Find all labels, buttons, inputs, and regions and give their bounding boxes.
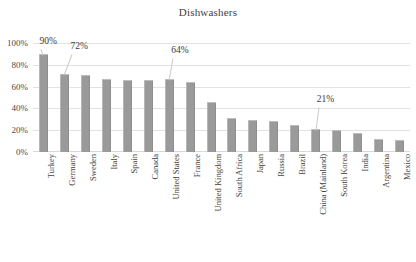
bar-slot[interactable] <box>290 43 299 152</box>
bar-slot[interactable] <box>395 43 404 152</box>
bar[interactable] <box>311 129 320 152</box>
x-tick-label: China (Mainland) <box>319 154 328 215</box>
y-tick-label: 20% <box>12 126 29 135</box>
x-axis: TurkeyGermanySwedenItalySpainCanadaUnite… <box>33 154 410 260</box>
data-label: 90% <box>39 37 56 47</box>
bar[interactable] <box>60 74 69 152</box>
bar-slot[interactable] <box>39 43 48 152</box>
bar[interactable] <box>290 125 299 152</box>
x-tick-label: United States <box>172 154 181 200</box>
x-tick-label: Germany <box>68 154 77 186</box>
bar[interactable] <box>374 139 383 152</box>
x-tick-label: Sweden <box>89 154 98 181</box>
bar-slot[interactable] <box>248 43 257 152</box>
bar-slot[interactable] <box>207 43 216 152</box>
y-tick-label: 0% <box>16 148 28 157</box>
plot-area: 90%72%64%21% <box>33 43 410 152</box>
y-tick-label: 40% <box>12 104 29 113</box>
bar[interactable] <box>39 54 48 152</box>
bar[interactable] <box>207 102 216 152</box>
y-tick-label: 80% <box>12 60 29 69</box>
x-tick-label: Russia <box>277 154 286 177</box>
bar-slot[interactable] <box>227 43 236 152</box>
x-tick-label: India <box>361 154 370 171</box>
x-tick-label: France <box>193 154 202 177</box>
bar[interactable] <box>144 80 153 152</box>
y-tick-label: 100% <box>7 39 28 48</box>
data-label: 72% <box>70 42 87 52</box>
x-tick-label: Italy <box>110 154 119 170</box>
bar-slot[interactable] <box>374 43 383 152</box>
x-tick-label: Spain <box>130 154 139 173</box>
x-tick-label: Brazil <box>298 154 307 175</box>
x-tick-label: South Korea <box>340 154 349 197</box>
bar-series <box>33 43 410 152</box>
y-axis: 0%20%40%60%80%100% <box>0 43 31 152</box>
x-tick-label: Japan <box>256 154 265 173</box>
bar[interactable] <box>395 140 404 152</box>
bar[interactable] <box>353 133 362 152</box>
bar-slot[interactable] <box>353 43 362 152</box>
x-tick-label: Canada <box>151 154 160 180</box>
bar-slot[interactable] <box>102 43 111 152</box>
x-tick-label: Turkey <box>47 154 56 178</box>
bar-slot[interactable] <box>269 43 278 152</box>
x-tick-label: Mexico <box>403 154 412 180</box>
bar[interactable] <box>248 120 257 152</box>
bar-slot[interactable] <box>81 43 90 152</box>
data-label: 64% <box>171 46 188 56</box>
x-tick-label: Argentina <box>382 154 391 188</box>
x-tick-label: South Africa <box>235 154 244 197</box>
bar[interactable] <box>186 82 195 152</box>
bar-slot[interactable] <box>123 43 132 152</box>
bar[interactable] <box>332 130 341 152</box>
bar[interactable] <box>227 118 236 152</box>
bar[interactable] <box>123 80 132 152</box>
y-tick-label: 60% <box>12 82 29 91</box>
bar[interactable] <box>102 79 111 152</box>
dishwashers-bar-chart: Dishwashers 0%20%40%60%80%100% 90%72%64%… <box>0 0 416 262</box>
bar[interactable] <box>81 75 90 152</box>
x-tick-label: United Kingdom <box>214 154 223 211</box>
bar[interactable] <box>165 79 174 152</box>
bar-slot[interactable] <box>60 43 69 152</box>
chart-title: Dishwashers <box>0 6 416 18</box>
bar-slot[interactable] <box>144 43 153 152</box>
data-label: 21% <box>317 95 334 105</box>
bar-slot[interactable] <box>186 43 195 152</box>
bar[interactable] <box>269 121 278 152</box>
